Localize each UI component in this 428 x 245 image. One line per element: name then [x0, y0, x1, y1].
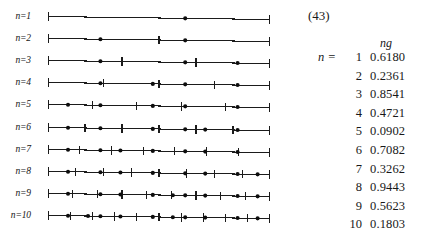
axis-n4 [48, 77, 270, 91]
data-point [98, 192, 102, 196]
number-line-group: n=1n=2n=3n=4n=5n=6n=7n=8n=9n=10 [0, 0, 290, 245]
data-point [183, 16, 187, 20]
data-point [98, 37, 102, 41]
data-point [151, 104, 155, 108]
data-point [66, 103, 70, 107]
data-point [118, 148, 122, 152]
number-line-row: n=9 [0, 188, 290, 210]
row-label-n3: n=3 [0, 55, 31, 65]
number-line-row: n=7 [0, 144, 290, 166]
data-point [236, 105, 240, 109]
table-cell-value: 0.3262 [370, 162, 405, 177]
row-label-n7: n=7 [0, 144, 31, 154]
data-point [86, 214, 90, 218]
data-point [183, 38, 187, 42]
number-line-row: n=6 [0, 122, 290, 144]
table-cell-n: 2 [340, 69, 362, 84]
data-point [236, 61, 240, 65]
row-label-n9: n=9 [0, 188, 31, 198]
data-point [203, 171, 207, 175]
axis-n2 [48, 33, 270, 47]
data-point [98, 104, 102, 108]
data-point [236, 172, 240, 176]
data-point [98, 148, 102, 152]
data-point [151, 215, 155, 219]
row-label-n1: n=1 [0, 11, 31, 21]
table-cell-value: 0.7082 [370, 143, 405, 158]
data-point [98, 59, 102, 63]
table-cell-n: 10 [340, 217, 362, 232]
row-label-n10: n=10 [0, 210, 31, 220]
table-cell-value: 0.0902 [370, 124, 405, 139]
data-point [183, 171, 187, 175]
table-cell-value: 0.2361 [370, 69, 405, 84]
data-point [118, 192, 122, 196]
data-point [236, 194, 240, 198]
data-point [183, 193, 187, 197]
data-point [183, 127, 187, 131]
number-line-row: n=3 [0, 55, 290, 77]
table-cell-n: 1 [340, 50, 362, 65]
data-point [203, 149, 207, 153]
data-point [66, 192, 70, 196]
data-point [236, 150, 240, 154]
table-header-ng: ng [380, 36, 392, 51]
data-point [98, 170, 102, 174]
data-point [66, 169, 70, 173]
table-cell-n: 5 [340, 124, 362, 139]
axis-n5 [48, 99, 270, 113]
table-cell-n: 7 [340, 162, 362, 177]
number-line-row: n=10 [0, 210, 290, 232]
data-point [98, 214, 102, 218]
axis-n10 [48, 210, 270, 224]
row-label-n4: n=4 [0, 77, 31, 87]
data-point [171, 193, 175, 197]
data-point [98, 126, 102, 130]
data-point [171, 215, 175, 219]
table-cell-n: 3 [340, 87, 362, 102]
row-label-n8: n=8 [0, 166, 31, 176]
axis-n7 [48, 144, 270, 158]
data-point [98, 81, 102, 85]
data-point [66, 214, 70, 218]
figure-canvas: n=1n=2n=3n=4n=5n=6n=7n=8n=9n=10 (43) ng … [0, 0, 428, 245]
data-point [183, 215, 187, 219]
data-point [66, 147, 70, 151]
axis-n6 [48, 122, 270, 136]
axis-n9 [48, 188, 270, 202]
data-point [236, 216, 240, 220]
table-cell-value: 0.4721 [370, 106, 405, 121]
data-point [151, 126, 155, 130]
table-cell-value: 0.6180 [370, 50, 405, 65]
data-point [256, 194, 260, 198]
data-point [151, 171, 155, 175]
data-point [66, 125, 70, 129]
row-label-n6: n=6 [0, 122, 31, 132]
data-point [203, 193, 207, 197]
data-point [236, 128, 240, 132]
row-label-n2: n=2 [0, 33, 31, 43]
table-cell-value: 0.8541 [370, 87, 405, 102]
table-cell-n: 8 [340, 180, 362, 195]
data-point [256, 172, 260, 176]
number-line-row: n=8 [0, 166, 290, 188]
table-cell-n: 4 [340, 106, 362, 121]
table-cell-value: 0.9443 [370, 180, 405, 195]
axis-line [48, 17, 270, 20]
axis-n3 [48, 55, 270, 69]
table-cell-n: 9 [340, 199, 362, 214]
data-point [151, 193, 155, 197]
number-line-row: n=1 [0, 11, 290, 33]
row-label-n5: n=5 [0, 99, 31, 109]
data-point [203, 215, 207, 219]
data-point [151, 148, 155, 152]
number-line-row: n=2 [0, 33, 290, 55]
data-point [183, 149, 187, 153]
axis-n1 [48, 11, 270, 25]
data-point [183, 105, 187, 109]
number-line-row: n=5 [0, 99, 290, 121]
equation-number: (43) [308, 8, 330, 24]
data-point [183, 60, 187, 64]
data-point [183, 83, 187, 87]
data-point [256, 216, 260, 220]
